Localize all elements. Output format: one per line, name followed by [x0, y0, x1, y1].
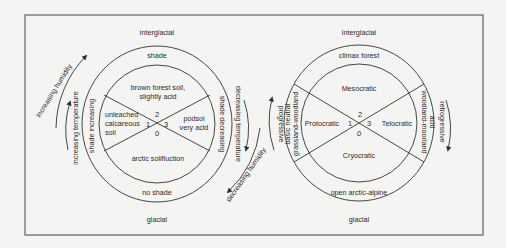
left-sector-top-line2: slightly acid: [139, 92, 176, 101]
increasing-temperature-label: increasing temperature: [71, 91, 80, 165]
decreasing-temperature-arrow: [244, 100, 249, 150]
left-ring-bottom-label: no shade: [142, 188, 172, 197]
left-number-top: 2: [155, 110, 159, 119]
left-ring-top-label: shade: [147, 51, 167, 60]
left-sector-left-line3: soil: [105, 128, 116, 137]
left-number-right: 3: [164, 120, 168, 129]
right-ring-left-line2: grassland-woodland: [291, 92, 300, 156]
right-ring-right-line1: woodland-moorland: [420, 89, 429, 153]
left-sector-right-line1: podsol: [183, 114, 205, 123]
retrogressive-label: retrogressive: [438, 101, 447, 143]
left-sector-left-line2: calcareous: [105, 119, 140, 128]
right-sector-left-label: Protocratic: [305, 119, 340, 128]
right-sector-bottom-label: Cryocratic: [343, 151, 376, 160]
right-sector-right-label: Telocratic: [382, 119, 413, 128]
right-glacial-label: glacial: [349, 215, 370, 224]
right-sector-top-label: Mesocratic: [342, 84, 377, 93]
right-interglacial-label: interglacial: [342, 28, 377, 37]
increasing-temperature-arrow: [66, 102, 70, 150]
progressive-label: progressive: [277, 105, 286, 142]
cycle-diagram-figure: interglacial glacial shade no shade shad…: [0, 0, 506, 248]
left-sector-bottom-label: arctic solifluction: [132, 154, 185, 163]
right-number-right: 3: [367, 119, 371, 128]
progressive-arrow: [269, 98, 274, 150]
left-ring-left-label: shade increasing: [87, 99, 96, 153]
decreasing-humidity-label: decreasing humidity: [224, 145, 268, 203]
left-sector-right-line2: very acid: [180, 123, 209, 132]
left-sector-top-line1: brown forest soil,: [131, 83, 185, 92]
left-ring-right-label: shade decreasing: [218, 96, 227, 153]
right-number-left: 1: [348, 119, 352, 128]
right-ring-bottom-label: open arctic-alpine: [331, 188, 388, 197]
figure: interglacial glacial shade no shade shad…: [0, 0, 506, 248]
right-ring-top-label: climax forest: [339, 51, 379, 60]
left-sector-left-line1: unleached: [105, 110, 138, 119]
left-soil-cycle-diagram: interglacial glacial shade no shade shad…: [34, 28, 268, 224]
left-interglacial-label: interglacial: [140, 28, 175, 37]
right-number-bottom: 0: [357, 129, 361, 138]
right-number-top: 2: [358, 110, 362, 119]
left-glacial-label: glacial: [147, 215, 168, 224]
decreasing-temperature-label: decreasing temperature: [234, 86, 243, 162]
right-ring-right-line2: acid: [428, 115, 437, 128]
left-number-left: 1: [146, 120, 150, 129]
right-vegetation-cycle-diagram: interglacial glacial climax forest open …: [269, 28, 450, 224]
left-number-bottom: 0: [155, 129, 159, 138]
